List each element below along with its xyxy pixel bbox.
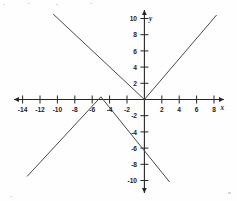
graph-figure: -14 -12 -10 -8 -6 -4 -2 2 4 6 8 2 4 6 8 … bbox=[0, 0, 237, 201]
y-tick-labels-negative: -2 -4 -6 -8 -10 bbox=[127, 112, 137, 184]
x-tick-label: -14 bbox=[18, 106, 28, 113]
y-tick-label: -4 bbox=[131, 129, 137, 136]
y-tick-label: 10 bbox=[130, 15, 138, 22]
y-tick-label: -2 bbox=[131, 112, 137, 119]
x-axis bbox=[14, 96, 224, 104]
y-tick-label: 8 bbox=[133, 31, 137, 38]
x-tick-label: -4 bbox=[107, 106, 113, 113]
x-tick-label: -10 bbox=[53, 106, 63, 113]
y-tick-label: 4 bbox=[133, 64, 137, 71]
x-axis-right-arrow bbox=[219, 97, 224, 102]
x-tick-label: 2 bbox=[160, 106, 164, 113]
y-tick-label: 6 bbox=[133, 48, 137, 55]
curve-downward-v bbox=[27, 97, 170, 182]
coordinate-plane-svg: -14 -12 -10 -8 -6 -4 -2 2 4 6 8 2 4 6 8 … bbox=[0, 0, 237, 201]
y-tick-label: 2 bbox=[133, 80, 137, 87]
x-tick-label: 6 bbox=[195, 106, 199, 113]
x-axis-label: x bbox=[219, 104, 224, 112]
y-axis-top-arrow bbox=[142, 10, 147, 15]
x-tick-label: 8 bbox=[212, 106, 216, 113]
x-tick-label: -6 bbox=[89, 106, 95, 113]
y-tick-label: -6 bbox=[131, 145, 137, 152]
x-tick-label: -12 bbox=[35, 106, 45, 113]
x-tick-label: -2 bbox=[124, 106, 130, 113]
y-axis bbox=[140, 10, 148, 193]
plotted-functions bbox=[27, 14, 217, 182]
x-tick-label: -8 bbox=[72, 106, 78, 113]
y-tick-labels-positive: 2 4 6 8 10 bbox=[130, 15, 138, 87]
x-axis-left-arrow bbox=[14, 97, 19, 102]
y-axis-bottom-arrow bbox=[142, 188, 147, 193]
x-tick-label: 4 bbox=[177, 106, 181, 113]
y-tick-label: -10 bbox=[127, 177, 137, 184]
x-tick-labels-positive: 2 4 6 8 bbox=[160, 106, 216, 113]
y-tick-label: -8 bbox=[131, 161, 137, 168]
y-axis-label: y bbox=[148, 15, 153, 23]
